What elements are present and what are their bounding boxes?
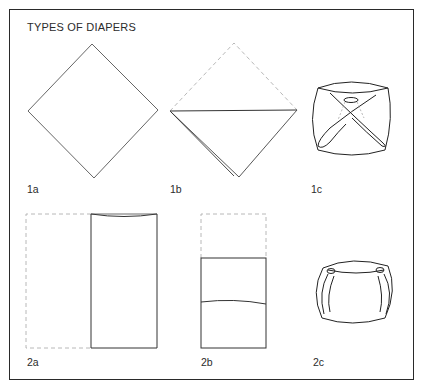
figure-label-2c: 2c <box>313 356 324 368</box>
figure-1c-pinned-diaper <box>313 82 391 155</box>
figure-1b-triangle <box>170 43 297 177</box>
figure-label-1a: 1a <box>27 183 39 195</box>
figure-label-1b: 1b <box>170 183 182 195</box>
figure-label-2b: 2b <box>201 356 213 368</box>
figure-2a-rectangle <box>26 214 157 348</box>
figure-1a-diamond <box>28 44 158 178</box>
diagram-artwork <box>0 0 421 390</box>
figure-2b-strip <box>201 214 266 348</box>
figure-2c-pinned-diaper <box>316 261 392 323</box>
figure-label-1c: 1c <box>311 183 322 195</box>
figure-label-2a: 2a <box>27 356 39 368</box>
